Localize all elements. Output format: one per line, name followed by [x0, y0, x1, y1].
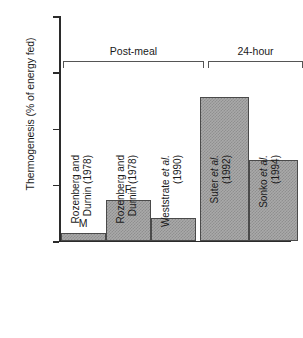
- y-tick-0: [53, 241, 59, 243]
- x-tick-label-rozenberg-durnin-m: Rozenberg and Durnin (1978): [70, 155, 93, 247]
- x-label-line1: Rozenberg and: [70, 155, 81, 223]
- x-tick-label-rozenberg-durnin-f: Rozenberg and Durnin (1978): [115, 155, 138, 247]
- group-bracket-post-meal: [63, 61, 204, 68]
- x-label-line1: Sonko: [258, 179, 269, 207]
- x-tick-label-suter: Suter et al. (1992): [209, 155, 232, 247]
- group-bracket-24-hour: [208, 61, 303, 68]
- x-tick-label-weststrate: Weststrate et al. (1990): [160, 155, 183, 247]
- x-label-line2: (1994): [270, 155, 281, 184]
- group-label-post-meal: Post-meal: [63, 46, 204, 57]
- x-label-etal: et al.: [160, 155, 171, 177]
- x-label-line2: Durnin (1978): [82, 155, 93, 216]
- x-label-etal: et al.: [258, 155, 269, 177]
- y-tick-30: [53, 72, 59, 74]
- x-tick-label-sonko: Sonko et al. (1994): [258, 155, 281, 247]
- y-axis-label: Thermogenesis (% of energy fed): [24, 14, 36, 214]
- x-label-line1: Suter: [209, 179, 220, 203]
- x-label-line2: Durnin (1978): [127, 155, 138, 216]
- y-tick-10: [53, 185, 59, 187]
- x-label-etal: et al.: [209, 155, 220, 177]
- x-label-line2: (1992): [221, 155, 232, 184]
- y-tick-20: [53, 129, 59, 131]
- y-axis-line: [59, 16, 61, 242]
- x-label-line1: Weststrate: [160, 179, 171, 227]
- thermogenesis-bar-chart: Thermogenesis (% of energy fed) 40 30 20…: [0, 0, 303, 338]
- y-tick-40: [53, 16, 59, 18]
- x-label-line1: Rozenberg and: [115, 155, 126, 223]
- group-label-24-hour: 24-hour: [208, 46, 303, 57]
- x-label-line2: (1990): [172, 155, 183, 184]
